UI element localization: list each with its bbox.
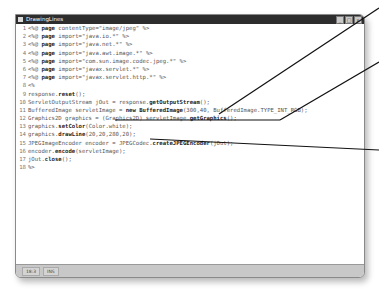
code-line[interactable]: 11BufferedImage servletImage = new Buffe… bbox=[16, 106, 364, 114]
close-button[interactable]: x bbox=[354, 16, 362, 24]
line-number: 14 bbox=[16, 130, 28, 138]
code-line[interactable]: 16encoder.encode(servletImage); bbox=[16, 147, 364, 155]
code-keyword: setColor bbox=[58, 123, 85, 129]
code-line[interactable]: 14graphics.drawLine(20,20,280,20); bbox=[16, 130, 364, 138]
code-keyword: drawLine bbox=[58, 131, 85, 137]
code-line[interactable]: 5<%@ page import="com.sun.image.codec.jp… bbox=[16, 57, 364, 65]
code-line[interactable]: 15JPEGImageEncoder encoder = JPEGCodec.c… bbox=[16, 139, 364, 147]
code-keyword: page bbox=[41, 74, 54, 80]
code-segment: (jOut); bbox=[210, 140, 234, 146]
cursor-position: 18:3 bbox=[22, 267, 40, 276]
line-number: 10 bbox=[16, 98, 28, 106]
code-line[interactable]: 12Graphics2D graphics = (Graphics2D) ser… bbox=[16, 114, 364, 122]
code-text: <%@ page import="java.awt.image.*" %> bbox=[28, 49, 364, 57]
code-text: ServletOutputStream jOut = response.getO… bbox=[28, 98, 364, 106]
code-segment: import="java.io.*" %> bbox=[55, 33, 129, 39]
maximize-button[interactable]: □ bbox=[345, 16, 353, 24]
code-keyword: page bbox=[41, 58, 54, 64]
app-icon bbox=[18, 17, 23, 22]
code-segment: import="javax.servlet.*" %> bbox=[55, 66, 149, 72]
code-segment: %> bbox=[28, 164, 35, 170]
code-text: <%@ page import="javax.servlet.*" %> bbox=[28, 65, 364, 73]
line-number: 17 bbox=[16, 155, 28, 163]
code-segment: <%@ bbox=[28, 33, 41, 39]
line-number: 11 bbox=[16, 106, 28, 114]
code-segment: <%@ bbox=[28, 66, 41, 72]
code-segment: contentType="image/jpeg" %> bbox=[55, 25, 149, 31]
code-line[interactable]: 2<%@ page import="java.io.*" %> bbox=[16, 32, 364, 40]
code-segment: <%@ bbox=[28, 74, 41, 80]
code-segment: ServletOutputStream jOut = response. bbox=[28, 99, 149, 105]
code-text: <%@ page import="javax.servlet.http.*" %… bbox=[28, 73, 364, 81]
code-segment: <%@ bbox=[28, 58, 41, 64]
code-text: <% bbox=[28, 81, 364, 89]
code-segment: BufferedImage servletImage = bbox=[28, 107, 126, 113]
code-segment: encoder. bbox=[28, 148, 55, 154]
minimize-button[interactable]: _ bbox=[336, 16, 344, 24]
code-text: JPEGImageEncoder encoder = JPEGCodec.cre… bbox=[28, 139, 364, 147]
line-number: 16 bbox=[16, 147, 28, 155]
code-segment: import="java.net.*" %> bbox=[55, 41, 132, 47]
code-segment: (); bbox=[62, 156, 72, 162]
code-keyword: page bbox=[41, 50, 54, 56]
line-number: 7 bbox=[16, 73, 28, 81]
code-line[interactable]: 10ServletOutputStream jOut = response.ge… bbox=[16, 98, 364, 106]
code-segment: import="java.awt.image.*" %> bbox=[55, 50, 153, 56]
window-controls: _ □ x bbox=[336, 16, 362, 24]
code-text: <%@ page contentType="image/jpeg" %> bbox=[28, 24, 364, 32]
code-line[interactable]: 9response.reset(); bbox=[16, 90, 364, 98]
code-keyword: page bbox=[41, 41, 54, 47]
code-text: <%@ page import="com.sun.image.codec.jpe… bbox=[28, 57, 364, 65]
code-text: encoder.encode(servletImage); bbox=[28, 147, 364, 155]
code-segment: <%@ bbox=[28, 25, 41, 31]
code-line[interactable]: 7<%@ page import="javax.servlet.http.*" … bbox=[16, 73, 364, 81]
code-text: graphics.drawLine(20,20,280,20); bbox=[28, 130, 364, 138]
code-keyword: encode bbox=[55, 148, 75, 154]
line-number: 1 bbox=[16, 24, 28, 32]
editor-window: DrawingLines _ □ x 1<%@ page contentType… bbox=[15, 14, 365, 278]
code-line[interactable]: 13graphics.setColor(Color.white); bbox=[16, 122, 364, 130]
code-line[interactable]: 17jOut.close(); bbox=[16, 155, 364, 163]
code-segment: graphics. bbox=[28, 123, 58, 129]
line-number: 4 bbox=[16, 49, 28, 57]
code-segment: import="javax.servlet.http.*" %> bbox=[55, 74, 166, 80]
code-line[interactable]: 8<% bbox=[16, 81, 364, 89]
code-line[interactable]: 4<%@ page import="java.awt.image.*" %> bbox=[16, 49, 364, 57]
line-number: 18 bbox=[16, 163, 28, 171]
code-keyword: reset bbox=[58, 91, 75, 97]
code-segment: <%@ bbox=[28, 41, 41, 47]
line-number: 12 bbox=[16, 114, 28, 122]
code-text: <%@ page import="java.net.*" %> bbox=[28, 40, 364, 48]
title-bar[interactable]: DrawingLines _ □ x bbox=[16, 15, 364, 24]
code-keyword: getOutputStream bbox=[149, 99, 200, 105]
code-keyword: createJPEGEncoder bbox=[153, 140, 210, 146]
code-segment: (); bbox=[75, 91, 85, 97]
code-keyword: page bbox=[41, 66, 54, 72]
window-title: DrawingLines bbox=[26, 15, 63, 24]
line-number: 13 bbox=[16, 122, 28, 130]
code-segment: (300,40, BufferedImage.TYPE_INT_RGB); bbox=[183, 107, 308, 113]
line-number: 3 bbox=[16, 40, 28, 48]
code-line[interactable]: 3<%@ page import="java.net.*" %> bbox=[16, 40, 364, 48]
code-keyword: getGraphics bbox=[190, 115, 227, 121]
code-line[interactable]: 6<%@ page import="javax.servlet.*" %> bbox=[16, 65, 364, 73]
code-segment: <%@ bbox=[28, 50, 41, 56]
code-text: <%@ page import="java.io.*" %> bbox=[28, 32, 364, 40]
code-segment: (); bbox=[200, 99, 210, 105]
code-text: jOut.close(); bbox=[28, 155, 364, 163]
code-segment: (); bbox=[227, 115, 237, 121]
code-segment: response. bbox=[28, 91, 58, 97]
code-segment: import="com.sun.image.codec.jpeg.*" %> bbox=[55, 58, 186, 64]
code-segment: Graphics2D graphics = (Graphics2D) servl… bbox=[28, 115, 190, 121]
line-number: 15 bbox=[16, 139, 28, 147]
code-segment: (Color.white); bbox=[85, 123, 132, 129]
code-text: response.reset(); bbox=[28, 90, 364, 98]
code-line[interactable]: 18%> bbox=[16, 163, 364, 171]
status-bar: 18:3 INS bbox=[16, 264, 364, 277]
code-line[interactable]: 1<%@ page contentType="image/jpeg" %> bbox=[16, 24, 364, 32]
code-text: %> bbox=[28, 163, 364, 171]
code-segment: JPEGImageEncoder encoder = JPEGCodec. bbox=[28, 140, 153, 146]
code-editor[interactable]: 1<%@ page contentType="image/jpeg" %>2<%… bbox=[16, 24, 364, 265]
insert-mode-indicator: INS bbox=[43, 267, 59, 276]
code-segment: <% bbox=[28, 82, 35, 88]
